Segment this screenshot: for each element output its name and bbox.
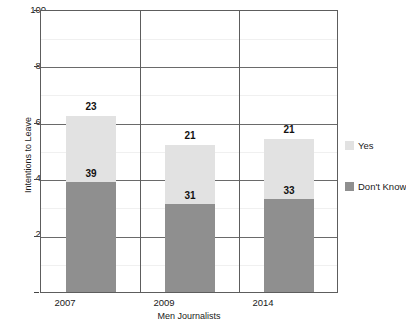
bar-segment-dontknow-2014 xyxy=(264,199,314,292)
legend-item-dontknow: Don't Know xyxy=(345,181,389,192)
x-tick-label-2014: 2014 xyxy=(233,297,293,308)
legend-swatch-yes-icon xyxy=(345,141,354,150)
legend-label-yes: Yes xyxy=(358,140,374,151)
gridline-minor-90 xyxy=(41,39,337,40)
y-tick-mark-0 xyxy=(34,292,39,293)
bar-value-yes-2007: 23 xyxy=(66,101,116,113)
gridline-minor-70 xyxy=(41,95,337,96)
x-axis-label: Men Journalists xyxy=(40,311,338,321)
bar-value-yes-2009: 21 xyxy=(165,130,215,142)
x-tick-label-2009: 2009 xyxy=(134,297,194,308)
y-tick-mark-80 xyxy=(34,66,39,67)
y-axis-label: Intentions to Leave xyxy=(23,65,33,245)
y-tick-mark-20 xyxy=(34,236,39,237)
bar-segment-dontknow-2009 xyxy=(165,204,215,292)
bar-value-dontknow-2009: 31 xyxy=(165,190,215,202)
bar-value-dontknow-2007: 39 xyxy=(66,168,116,180)
bar-group-2014: 21 33 xyxy=(264,139,314,292)
category-separator-1 xyxy=(140,11,141,292)
plot-area: 23 39 21 31 21 33 xyxy=(40,10,338,293)
bar-segment-dontknow-2007 xyxy=(66,182,116,292)
legend: Yes Don't Know xyxy=(345,140,389,222)
legend-label-dontknow: Don't Know xyxy=(358,181,406,192)
legend-item-yes: Yes xyxy=(345,140,389,151)
category-separator-2 xyxy=(239,11,240,292)
bar-value-yes-2014: 21 xyxy=(264,124,314,136)
legend-swatch-dontknow-icon xyxy=(345,182,354,191)
bar-value-dontknow-2014: 33 xyxy=(264,185,314,197)
bar-group-2007: 23 39 xyxy=(66,116,116,292)
x-tick-label-2007: 2007 xyxy=(35,297,95,308)
bar-group-2009: 21 31 xyxy=(165,145,215,292)
y-tick-mark-40 xyxy=(34,179,39,180)
y-tick-mark-60 xyxy=(34,123,39,124)
gridline-80 xyxy=(41,67,337,68)
y-tick-mark-100 xyxy=(34,10,39,11)
